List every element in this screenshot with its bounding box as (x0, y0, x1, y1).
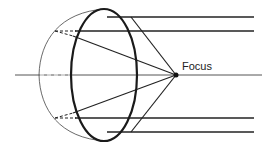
focus-label: Focus (182, 60, 212, 72)
dashed-extension-bottom-diag (55, 113, 73, 118)
lens-diagram: Focus (0, 0, 273, 150)
dashed-extension-top-diag (55, 31, 73, 36)
focus-point (174, 73, 179, 78)
